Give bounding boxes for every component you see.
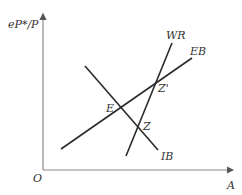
point-e-label: E	[105, 102, 114, 115]
ib-line	[85, 66, 158, 150]
origin-label: O	[33, 172, 42, 185]
point-z-label: Z	[142, 120, 151, 133]
x-axis-label: A	[226, 179, 235, 192]
ib-label: IB	[160, 150, 173, 163]
diagram: eP*/P A O WR EB IB E Z Z'	[0, 0, 242, 195]
wr-label: WR	[166, 29, 186, 42]
eb-label: EB	[189, 45, 206, 58]
y-axis-label: eP*/P	[8, 18, 39, 31]
eb-line	[61, 58, 192, 149]
point-z-prime-label: Z'	[157, 82, 169, 95]
